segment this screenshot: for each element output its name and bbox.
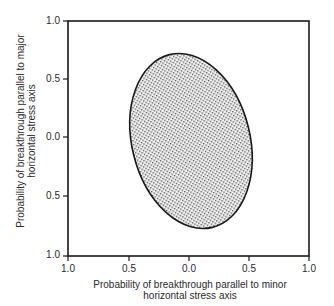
x-tick-label: 1.0 xyxy=(294,264,324,274)
probability-ellipse xyxy=(112,40,270,241)
y-axis-title-line-1: Probability of breakthrough parallel to … xyxy=(15,16,26,246)
x-axis-title-line-1: Probability of breakthrough parallel to … xyxy=(60,279,320,290)
y-axis-title-line-2: horizontal stress axis xyxy=(26,16,37,246)
x-tick-label: 0.0 xyxy=(174,264,204,274)
y-tick-label: 1.0 xyxy=(36,16,60,26)
x-tick-label: 0.5 xyxy=(234,264,264,274)
y-tick-label: 1.0 xyxy=(36,250,60,260)
x-tick-label: 1.0 xyxy=(53,264,83,274)
x-axis-title: Probability of breakthrough parallel to … xyxy=(60,279,320,301)
y-axis-title: Probability of breakthrough parallel to … xyxy=(15,16,37,246)
y-tick-label: 0.0 xyxy=(36,132,60,142)
x-axis-title-line-2: horizontal stress axis xyxy=(60,290,320,301)
x-tick-label: 0.5 xyxy=(114,264,144,274)
y-tick-label: 0.5 xyxy=(36,191,60,201)
y-tick-label: 0.5 xyxy=(36,74,60,84)
plot-svg xyxy=(0,0,334,306)
chart: 1.0 0.5 0.0 0.5 1.0 1.0 0.5 0.0 0.5 1.0 … xyxy=(0,0,334,306)
